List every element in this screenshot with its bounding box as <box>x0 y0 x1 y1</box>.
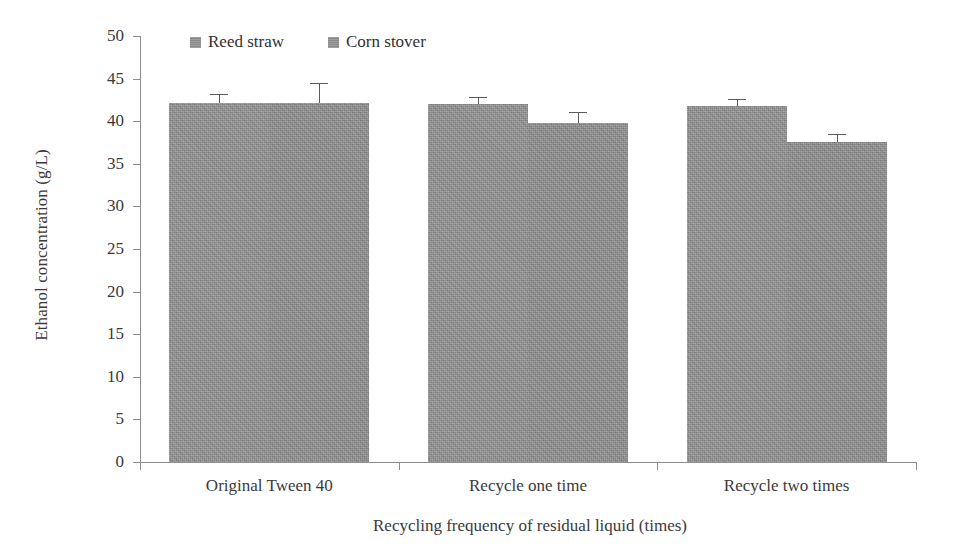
y-axis-tick-label: 30 <box>107 196 124 216</box>
legend-entry: Reed straw <box>190 32 284 52</box>
y-axis-tick: 40 <box>133 121 140 122</box>
bar <box>528 123 628 462</box>
y-axis-tick: 0 <box>133 462 140 463</box>
error-bar-stem <box>319 83 320 103</box>
x-axis-tick <box>140 462 141 470</box>
bar <box>269 103 369 462</box>
legend: Reed strawCorn stover <box>190 32 426 52</box>
y-axis-tick-label: 25 <box>107 239 124 259</box>
x-axis-category-label: Recycle two times <box>724 476 850 496</box>
x-axis-category-label: Original Tween 40 <box>206 476 333 496</box>
y-axis-tick: 10 <box>133 377 140 378</box>
x-axis-title: Recycling frequency of residual liquid (… <box>140 516 920 536</box>
y-axis-tick-label: 45 <box>107 69 124 89</box>
error-bar-cap <box>310 83 328 84</box>
error-bar-stem <box>737 99 738 106</box>
y-axis-tick: 5 <box>133 419 140 420</box>
error-bar-cap <box>828 134 846 135</box>
y-axis-tick: 15 <box>133 334 140 335</box>
y-axis-tick-label: 15 <box>107 324 124 344</box>
y-axis-tick: 50 <box>133 36 140 37</box>
y-axis-tick: 25 <box>133 249 140 250</box>
y-axis-tick: 20 <box>133 292 140 293</box>
error-bar-stem <box>478 97 479 104</box>
error-bar-stem <box>837 134 838 142</box>
plot-area: 05101520253035404550 Original Tween 40Re… <box>140 36 916 462</box>
bar <box>428 104 528 462</box>
legend-entry: Corn stover <box>328 32 426 52</box>
error-bar-cap <box>728 99 746 100</box>
x-axis-line <box>140 462 916 463</box>
legend-swatch-icon <box>190 37 201 48</box>
error-bar-cap <box>569 112 587 113</box>
y-axis-title: Ethanol concentration (g/L) <box>22 10 62 480</box>
y-axis-tick-label: 35 <box>107 154 124 174</box>
error-bar-stem <box>578 112 579 123</box>
y-axis-tick-label: 20 <box>107 282 124 302</box>
bar <box>787 142 887 462</box>
error-bar-stem <box>219 94 220 103</box>
x-axis-tick <box>916 462 917 470</box>
bar <box>687 106 787 462</box>
bar <box>169 103 269 462</box>
x-axis-tick <box>657 462 658 470</box>
x-axis-tick <box>399 462 400 470</box>
bar-chart-figure: Ethanol concentration (g/L) 051015202530… <box>0 0 961 560</box>
x-axis-category-label: Recycle one time <box>469 476 587 496</box>
y-axis-tick: 45 <box>133 79 140 80</box>
y-axis-tick-label: 50 <box>107 26 124 46</box>
y-axis-tick: 35 <box>133 164 140 165</box>
y-axis-tick-label: 0 <box>116 452 125 472</box>
error-bar-cap <box>210 94 228 95</box>
y-axis-tick: 30 <box>133 206 140 207</box>
y-axis-tick-label: 10 <box>107 367 124 387</box>
legend-label: Reed straw <box>208 32 284 52</box>
legend-swatch-icon <box>328 37 339 48</box>
y-axis-tick-label: 5 <box>116 409 125 429</box>
y-axis-line <box>140 36 141 463</box>
y-axis-tick-label: 40 <box>107 111 124 131</box>
error-bar-cap <box>469 97 487 98</box>
legend-label: Corn stover <box>346 32 426 52</box>
